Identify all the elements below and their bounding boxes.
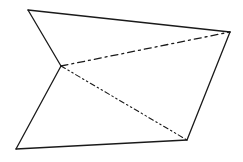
edge-c-e-dash-dot-dot [61, 66, 187, 140]
edge-a-b-solid [28, 10, 230, 32]
geometric-diagram [0, 0, 243, 162]
edge-d-e-solid [16, 140, 187, 149]
edge-c-d-solid [16, 66, 61, 149]
edge-a-c-solid [28, 10, 61, 66]
edge-c-b-dash-dot [61, 32, 230, 66]
edge-e-b-solid [187, 32, 230, 140]
